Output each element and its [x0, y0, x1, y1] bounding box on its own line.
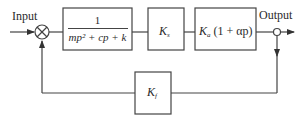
summing-junction — [35, 25, 49, 39]
fraction-bar — [68, 28, 128, 29]
kf-symbol: K — [147, 85, 155, 99]
ks-subscript: s — [167, 31, 170, 39]
kf-label: Kf — [147, 85, 157, 100]
plant-numerator: 1 — [95, 14, 101, 27]
output-label: Output — [259, 8, 292, 23]
input-label: Input — [12, 9, 37, 24]
ka-label: Ka (1 + αp) — [199, 24, 253, 39]
kf-subscript: f — [155, 92, 157, 100]
plant-denominator: mp² + cp + k — [69, 31, 127, 44]
ka-symbol: K — [199, 24, 207, 38]
plant-transfer-function: 1 mp² + cp + k — [63, 8, 132, 50]
ka-dynamics: (1 + αp) — [211, 24, 253, 38]
block-diagram-canvas — [0, 0, 302, 120]
output-takeoff-node — [274, 29, 281, 36]
ks-label: Ks — [159, 24, 170, 39]
ks-symbol: K — [159, 24, 167, 38]
